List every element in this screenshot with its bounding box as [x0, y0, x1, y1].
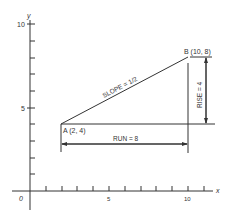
y-tick-10: 10: [17, 21, 25, 28]
x-axis: [12, 186, 213, 191]
run-label: RUN = 8: [113, 135, 138, 142]
y-tick-5: 5: [21, 105, 25, 112]
point-b-label: B (10, 8): [184, 48, 211, 56]
y-axis-label: y: [26, 12, 31, 20]
slope-label: SLOPE = 1/2: [101, 75, 138, 99]
rise-label: RISE = 4: [196, 81, 203, 108]
x-tick-10: 10: [184, 196, 191, 202]
slope-line: [61, 57, 188, 124]
y-axis: [27, 20, 35, 210]
point-a-label: A (2, 4): [63, 127, 86, 135]
x-tick-5: 5: [107, 196, 111, 202]
origin-label: 0: [19, 195, 23, 202]
slope-diagram: y 10 5 x 0 5 10 RUN = 8 RISE = 4 SLOPE =…: [0, 0, 230, 223]
x-axis-label: x: [215, 187, 220, 194]
